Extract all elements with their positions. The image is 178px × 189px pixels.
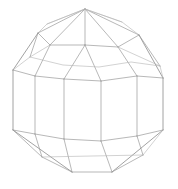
apex-spoke-edge bbox=[85, 9, 139, 35]
upper-equator-edge bbox=[64, 79, 101, 81]
lower-band-edge bbox=[112, 130, 163, 172]
base-ring-edge bbox=[42, 155, 143, 157]
upper-band-edge bbox=[64, 45, 85, 79]
upper-equator-edge bbox=[101, 76, 137, 81]
upper-band-edge bbox=[139, 35, 163, 78]
lower-band-edge bbox=[101, 141, 112, 172]
cap-ring-edge bbox=[118, 35, 139, 47]
upper-band-verticals-group bbox=[13, 33, 163, 81]
upper-band-edge bbox=[30, 33, 38, 57]
upper-band-edge bbox=[13, 33, 38, 70]
lower-band-verticals-group bbox=[13, 130, 163, 172]
lower-equator-edge bbox=[64, 139, 101, 141]
upper-equator-edge bbox=[13, 70, 35, 76]
upper-equator-edge bbox=[35, 76, 64, 79]
equatorial-band-group bbox=[13, 70, 163, 141]
upper-equator-ring-group bbox=[13, 57, 163, 81]
upper-equator-edge bbox=[30, 57, 160, 67]
apex-spoke-edge bbox=[50, 9, 85, 45]
upper-equator-edge bbox=[137, 76, 163, 78]
upper-equator-edge bbox=[160, 66, 163, 78]
apex-spokes-group bbox=[38, 9, 139, 47]
lower-band-edge bbox=[137, 136, 143, 155]
base-ring-edge bbox=[112, 155, 143, 172]
apex-spoke-edge bbox=[38, 9, 85, 33]
cap-ring-edge bbox=[38, 33, 50, 45]
cap-ring-edge bbox=[85, 45, 118, 47]
lower-equator-edge bbox=[101, 136, 137, 141]
lower-equator-edge bbox=[35, 134, 64, 139]
base-ring-edge bbox=[42, 157, 72, 172]
upper-equator-edge bbox=[13, 57, 30, 70]
lower-band-edge bbox=[13, 130, 72, 172]
wireframe-polyhedron-svg bbox=[0, 0, 178, 189]
upper-band-edge bbox=[85, 45, 101, 81]
base-ring-group bbox=[42, 155, 143, 172]
figure-canvas bbox=[0, 0, 178, 189]
